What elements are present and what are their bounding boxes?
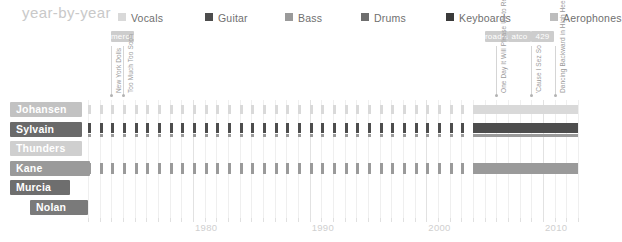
legend-item-drums[interactable]: Drums xyxy=(361,8,406,22)
record-label-band[interactable]: 429 xyxy=(531,31,554,42)
activity-tick-bass[interactable] xyxy=(158,163,161,174)
activity-tick-vocals[interactable] xyxy=(216,105,219,114)
activity-tick-vocals[interactable] xyxy=(251,105,254,114)
activity-tick-vocals[interactable] xyxy=(426,105,429,114)
activity-tick-vocals[interactable] xyxy=(88,105,91,114)
activity-tick-vocals[interactable] xyxy=(380,105,383,114)
activity-tick-vocals[interactable] xyxy=(333,105,336,114)
row-label-murcia[interactable]: Murcia xyxy=(10,180,70,195)
activity-tick-bass[interactable] xyxy=(205,163,208,174)
activity-tick-bass[interactable] xyxy=(181,163,184,174)
activity-tick-bass[interactable] xyxy=(321,163,324,174)
activity-tick-guitar[interactable] xyxy=(310,123,313,133)
activity-tick-bass[interactable] xyxy=(135,134,138,137)
activity-tick-guitar[interactable] xyxy=(333,123,336,133)
activity-tick-vocals[interactable] xyxy=(403,105,406,114)
activity-tick-bass[interactable] xyxy=(461,163,464,174)
legend-item-vocals[interactable]: Vocals xyxy=(118,8,163,22)
activity-tick-bass[interactable] xyxy=(426,134,429,137)
activity-tick-guitar[interactable] xyxy=(111,123,114,133)
album-marker-dot[interactable] xyxy=(110,94,113,97)
activity-tick-guitar[interactable] xyxy=(356,123,359,133)
activity-tick-guitar[interactable] xyxy=(228,123,231,133)
activity-tick-bass[interactable] xyxy=(263,163,266,174)
activity-tick-guitar[interactable] xyxy=(181,123,184,133)
activity-tick-bass[interactable] xyxy=(298,134,301,137)
activity-tick-guitar[interactable] xyxy=(403,123,406,133)
activity-tick-bass[interactable] xyxy=(251,163,254,174)
activity-tick-vocals[interactable] xyxy=(321,105,324,114)
activity-tick-vocals[interactable] xyxy=(123,105,126,114)
activity-tick-bass[interactable] xyxy=(426,163,429,174)
activity-tick-bass[interactable] xyxy=(450,163,453,174)
activity-bar-guitar[interactable] xyxy=(473,123,578,133)
activity-tick-bass[interactable] xyxy=(345,134,348,137)
activity-tick-vocals[interactable] xyxy=(345,105,348,114)
activity-tick-bass[interactable] xyxy=(193,163,196,174)
activity-tick-bass[interactable] xyxy=(111,134,114,137)
activity-tick-bass[interactable] xyxy=(345,163,348,174)
activity-tick-vocals[interactable] xyxy=(415,105,418,114)
activity-tick-guitar[interactable] xyxy=(286,123,289,133)
activity-tick-guitar[interactable] xyxy=(123,123,126,133)
activity-tick-bass[interactable] xyxy=(216,134,219,137)
activity-tick-bass[interactable] xyxy=(391,163,394,174)
activity-bar-bass[interactable] xyxy=(473,163,578,174)
activity-tick-vocals[interactable] xyxy=(193,105,196,114)
activity-tick-guitar[interactable] xyxy=(88,123,91,133)
activity-tick-vocals[interactable] xyxy=(368,105,371,114)
activity-tick-vocals[interactable] xyxy=(111,105,114,114)
legend-item-guitar[interactable]: Guitar xyxy=(205,8,248,22)
activity-tick-guitar[interactable] xyxy=(426,123,429,133)
record-label-band[interactable]: atco xyxy=(508,31,531,42)
activity-tick-bass[interactable] xyxy=(228,163,231,174)
row-label-nolan[interactable]: Nolan xyxy=(30,200,88,215)
activity-tick-bass[interactable] xyxy=(205,134,208,137)
activity-tick-vocals[interactable] xyxy=(263,105,266,114)
activity-tick-vocals[interactable] xyxy=(275,105,278,114)
activity-tick-bass[interactable] xyxy=(263,134,266,137)
activity-tick-guitar[interactable] xyxy=(298,123,301,133)
activity-tick-vocals[interactable] xyxy=(438,105,441,114)
activity-tick-guitar[interactable] xyxy=(216,123,219,133)
row-label-johansen[interactable]: Johansen xyxy=(10,102,82,117)
album-marker-dot[interactable] xyxy=(554,94,557,97)
activity-tick-vocals[interactable] xyxy=(205,105,208,114)
album-marker-dot[interactable] xyxy=(122,94,125,97)
activity-tick-bass[interactable] xyxy=(391,134,394,137)
activity-tick-guitar[interactable] xyxy=(263,123,266,133)
activity-tick-vocals[interactable] xyxy=(391,105,394,114)
activity-tick-bass[interactable] xyxy=(310,163,313,174)
activity-tick-bass[interactable] xyxy=(368,134,371,137)
activity-tick-vocals[interactable] xyxy=(146,105,149,114)
activity-tick-bass[interactable] xyxy=(286,134,289,137)
activity-tick-guitar[interactable] xyxy=(146,123,149,133)
activity-tick-bass[interactable] xyxy=(100,134,103,137)
activity-tick-bass[interactable] xyxy=(321,134,324,137)
activity-tick-bass[interactable] xyxy=(240,134,243,137)
activity-tick-bass[interactable] xyxy=(286,163,289,174)
activity-tick-vocals[interactable] xyxy=(228,105,231,114)
activity-tick-bass[interactable] xyxy=(403,163,406,174)
activity-tick-vocals[interactable] xyxy=(450,105,453,114)
album-marker-dot[interactable] xyxy=(530,94,533,97)
activity-tick-bass[interactable] xyxy=(123,163,126,174)
activity-tick-bass[interactable] xyxy=(298,163,301,174)
activity-tick-bass[interactable] xyxy=(123,134,126,137)
activity-tick-bass[interactable] xyxy=(88,163,91,174)
activity-tick-bass[interactable] xyxy=(356,134,359,137)
activity-tick-vocals[interactable] xyxy=(135,105,138,114)
activity-tick-bass[interactable] xyxy=(135,163,138,174)
activity-tick-guitar[interactable] xyxy=(415,123,418,133)
activity-tick-bass[interactable] xyxy=(228,134,231,137)
activity-tick-bass[interactable] xyxy=(403,134,406,137)
activity-tick-guitar[interactable] xyxy=(251,123,254,133)
activity-tick-guitar[interactable] xyxy=(380,123,383,133)
activity-tick-guitar[interactable] xyxy=(170,123,173,133)
activity-tick-bass[interactable] xyxy=(438,163,441,174)
activity-tick-vocals[interactable] xyxy=(170,105,173,114)
activity-tick-guitar[interactable] xyxy=(275,123,278,133)
activity-tick-guitar[interactable] xyxy=(135,123,138,133)
activity-tick-bass[interactable] xyxy=(333,163,336,174)
activity-tick-bass[interactable] xyxy=(170,134,173,137)
